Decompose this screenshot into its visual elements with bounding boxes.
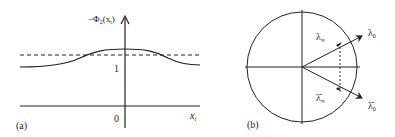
figure: −Φ2(xt) 1 0 xt (a) λ∞ λ0 λ̄∞ — [0, 0, 395, 137]
lambda-bar-0-label: λ̄0 — [368, 100, 376, 112]
lambda-bar-0-arrow — [302, 67, 362, 98]
tick-one: 1 — [114, 63, 119, 74]
potential-curve — [20, 49, 200, 67]
panel-b-label: (b) — [247, 119, 259, 131]
y-axis-label: −Φ2(xt) — [88, 14, 115, 25]
tick-zero: 0 — [114, 113, 119, 124]
panel-a: −Φ2(xt) 1 0 xt (a) — [16, 14, 200, 132]
x-axis-label: xt — [189, 110, 196, 122]
panel-b: λ∞ λ0 λ̄∞ λ̄0 (b) — [245, 10, 376, 131]
lambda-inf-label: λ∞ — [316, 31, 325, 43]
panel-a-label: (a) — [16, 120, 27, 132]
lambda-0-label: λ0 — [368, 27, 376, 39]
lambda-0-arrow — [302, 36, 362, 67]
lambda-bar-inf-label: λ̄∞ — [316, 92, 325, 104]
